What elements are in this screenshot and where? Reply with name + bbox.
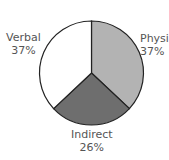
- label-physical-name: Physi: [140, 32, 169, 45]
- label-indirect: Indirect 26%: [71, 128, 113, 154]
- label-physical: Physi 37%: [140, 32, 169, 58]
- label-indirect-name: Indirect: [71, 128, 113, 141]
- label-physical-pct: 37%: [140, 45, 169, 58]
- label-verbal: Verbal 37%: [6, 31, 41, 57]
- label-verbal-name: Verbal: [6, 31, 41, 44]
- label-verbal-pct: 37%: [6, 44, 41, 57]
- label-indirect-pct: 26%: [71, 141, 113, 154]
